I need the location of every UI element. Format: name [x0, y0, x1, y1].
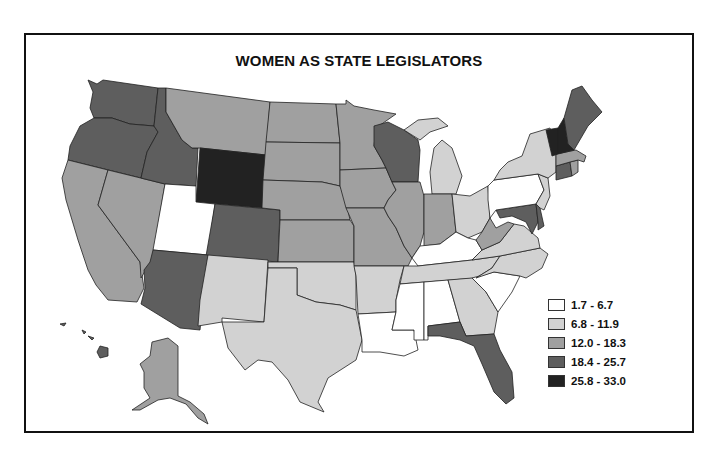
legend-swatch	[548, 318, 565, 330]
legend-swatch	[548, 337, 565, 349]
us-choropleth-map	[0, 0, 721, 462]
legend-item: 25.8 - 33.0	[548, 372, 626, 390]
legend-item: 18.4 - 25.7	[548, 353, 626, 371]
state-co	[206, 204, 280, 262]
legend-swatch	[548, 299, 565, 311]
state-wy	[196, 148, 266, 208]
state-sd	[263, 142, 340, 186]
state-hi	[60, 323, 108, 358]
legend-label: 25.8 - 33.0	[571, 375, 626, 387]
legend-label: 1.7 - 6.7	[571, 299, 613, 311]
legend-label: 12.0 - 18.3	[571, 337, 626, 349]
legend: 1.7 - 6.7 6.8 - 11.9 12.0 - 18.3 18.4 - …	[548, 296, 626, 391]
state-nd	[266, 102, 340, 143]
state-ak	[132, 338, 208, 424]
state-az	[141, 250, 208, 330]
state-ks	[278, 220, 354, 262]
state-ny	[494, 128, 556, 180]
legend-swatch	[548, 375, 565, 387]
legend-item: 1.7 - 6.7	[548, 296, 626, 314]
state-nm	[198, 255, 268, 326]
state-me	[564, 86, 602, 150]
legend-item: 12.0 - 18.3	[548, 334, 626, 352]
legend-swatch	[548, 356, 565, 368]
legend-item: 6.8 - 11.9	[548, 315, 626, 333]
legend-label: 6.8 - 11.9	[571, 318, 619, 330]
legend-label: 18.4 - 25.7	[571, 356, 626, 368]
